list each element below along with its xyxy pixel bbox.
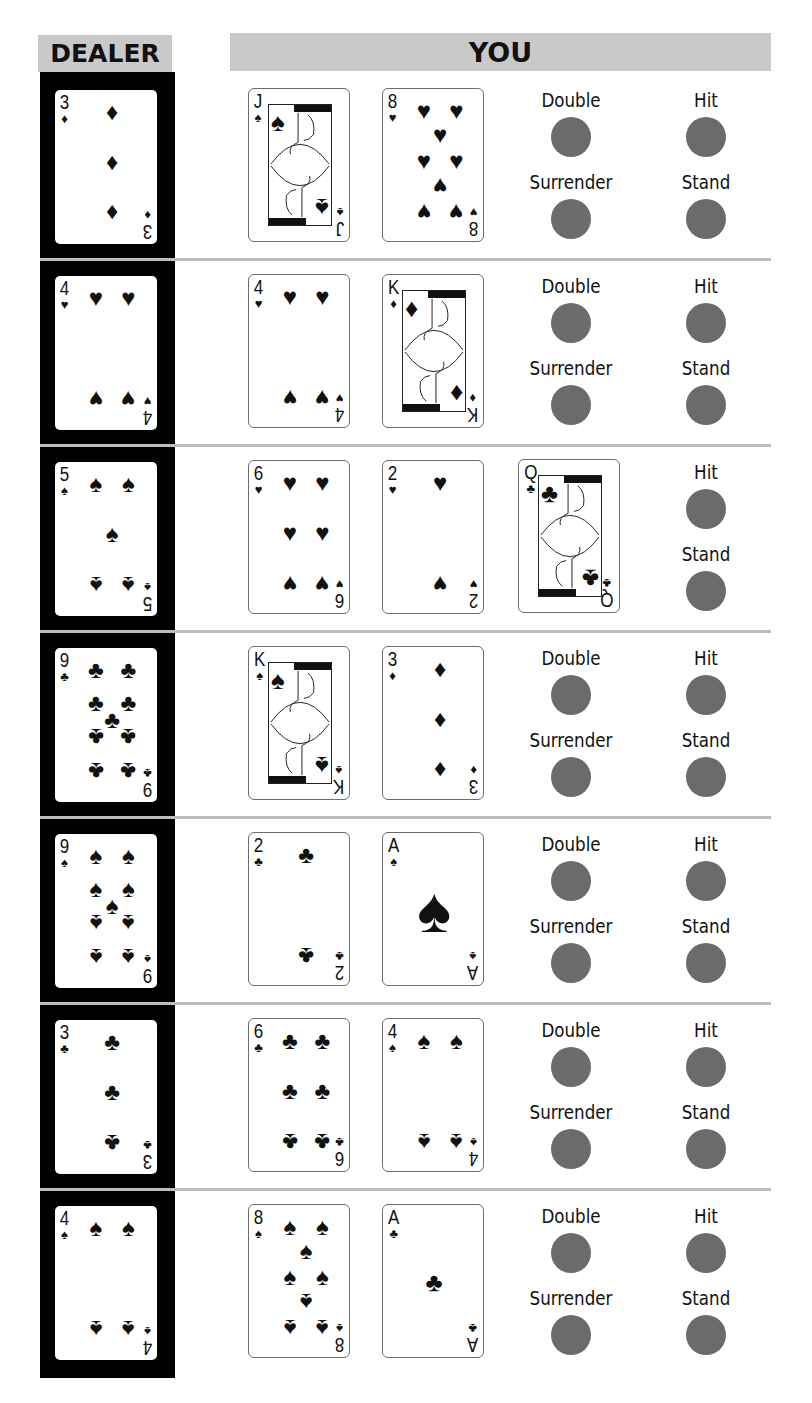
diamond-icon: ♦	[106, 201, 118, 225]
stand-label: Stand	[682, 915, 731, 937]
card-index-bottom: 3♦	[142, 209, 153, 242]
player-card: 4♥4♥♥♥♥♥	[248, 274, 350, 428]
double-button[interactable]	[551, 861, 591, 901]
double-button[interactable]	[551, 1047, 591, 1087]
stand-button[interactable]	[686, 1129, 726, 1169]
double-button[interactable]	[551, 117, 591, 157]
player-card: 6♣6♣♣♣♣♣♣♣	[248, 1018, 350, 1172]
player-card: 2♣2♣♣♣	[248, 832, 350, 986]
player-card: 3♦3♦♦♦♦	[382, 646, 484, 800]
heart-icon: ♥	[417, 200, 431, 224]
hit-button[interactable]	[686, 1047, 726, 1087]
card-index-bottom: 2♣	[334, 950, 345, 983]
player-card: 8♥8♥♥♥♥♥♥♥♥♥	[382, 88, 484, 242]
spade-icon: ♠	[315, 753, 329, 779]
card-index-bottom: 2♥	[468, 578, 479, 611]
surrender-button[interactable]	[551, 943, 591, 983]
stand-button[interactable]	[686, 571, 726, 611]
surrender-button[interactable]	[551, 757, 591, 797]
stand-button[interactable]	[686, 757, 726, 797]
card-rank: 8	[254, 1207, 263, 1227]
spade-icon: ♠	[89, 472, 102, 496]
heart-icon: ♥	[433, 123, 447, 147]
card-rank: Q	[601, 590, 614, 610]
surrender-label: Surrender	[530, 171, 613, 193]
club-icon: ♣	[527, 482, 536, 495]
card-index-top: 4♠	[387, 1021, 398, 1054]
card-rank: 3	[469, 777, 478, 797]
hand-row: 3♦3♦♦♦♦J♠J♠♠♠8♥8♥♥♥♥♥♥♥♥♥DoubleHitSurren…	[0, 73, 812, 259]
hit-label: Hit	[694, 647, 718, 669]
hit-label: Hit	[694, 89, 718, 111]
dealer-header: DEALER	[38, 35, 172, 72]
surrender-button[interactable]	[551, 199, 591, 239]
card-rank: 2	[254, 835, 263, 855]
double-button[interactable]	[551, 675, 591, 715]
stand-button[interactable]	[686, 199, 726, 239]
spade-icon: ♠	[300, 1290, 313, 1314]
face-band	[428, 291, 465, 298]
card-rank: 6	[254, 463, 263, 483]
surrender-label: Surrender	[530, 1287, 613, 1309]
card-rank: 4	[335, 405, 344, 425]
diamond-icon: ♦	[434, 657, 446, 681]
hand-row: 5♠5♠♠♠♠♠♠6♥6♥♥♥♥♥♥♥2♥2♥♥♥Q♣Q♣♣♣HitStand	[0, 445, 812, 631]
double-button[interactable]	[551, 303, 591, 343]
heart-icon: ♥	[449, 200, 463, 224]
club-icon: ♣	[315, 1029, 331, 1053]
hit-button[interactable]	[686, 861, 726, 901]
hit-button[interactable]	[686, 117, 726, 157]
club-icon: ♣	[88, 691, 104, 715]
surrender-label: Surrender	[530, 1101, 613, 1123]
dealer-card: 5♠5♠♠♠♠♠♠	[55, 462, 157, 616]
hit-button[interactable]	[686, 1233, 726, 1273]
card-index-top: 2♥	[387, 463, 398, 496]
player-card: A♣A♣♣	[382, 1204, 484, 1358]
card-index-bottom: J♠	[335, 206, 345, 239]
card-rank: 6	[335, 1149, 344, 1169]
surrender-button[interactable]	[551, 1129, 591, 1169]
card-index-bottom: K♦	[466, 392, 479, 425]
surrender-button[interactable]	[551, 1315, 591, 1355]
hit-button[interactable]	[686, 675, 726, 715]
heart-icon: ♥	[283, 572, 297, 596]
heart-icon: ♥	[89, 387, 103, 411]
card-rank: J	[336, 219, 345, 239]
hit-button[interactable]	[686, 489, 726, 529]
spade-icon: ♠	[89, 844, 102, 868]
spade-icon: ♠	[271, 109, 285, 135]
card-index-top: 3♦	[59, 92, 70, 125]
diamond-icon: ♦	[390, 297, 397, 310]
surrender-label: Surrender	[530, 729, 613, 751]
heart-icon: ♥	[315, 285, 329, 309]
heart-icon: ♥	[61, 298, 69, 311]
stand-label: Stand	[682, 171, 731, 193]
card-rank: 4	[254, 277, 263, 297]
hit-button[interactable]	[686, 303, 726, 343]
heart-icon: ♥	[315, 572, 329, 596]
card-rank: 4	[469, 1149, 478, 1169]
stand-button[interactable]	[686, 943, 726, 983]
spade-icon: ♠	[61, 484, 68, 497]
card-index-bottom: 4♥	[334, 392, 345, 425]
diamond-icon: ♦	[434, 707, 446, 731]
stand-button[interactable]	[686, 1315, 726, 1355]
you-header: YOU	[230, 33, 771, 71]
hit-label: Hit	[694, 1205, 718, 1227]
card-rank: 9	[60, 650, 69, 670]
spade-icon: ♠	[122, 844, 135, 868]
surrender-label: Surrender	[530, 357, 613, 379]
stand-button[interactable]	[686, 385, 726, 425]
surrender-button[interactable]	[551, 385, 591, 425]
card-index-bottom: 3♣	[142, 1139, 153, 1172]
club-icon: ♣	[104, 1080, 120, 1104]
card-index-top: 9♣	[59, 650, 70, 683]
hit-label: Hit	[694, 461, 718, 483]
double-button[interactable]	[551, 1233, 591, 1273]
heart-icon: ♥	[283, 521, 297, 545]
card-index-bottom: A♣	[466, 1322, 479, 1355]
hand-row: 9♣9♣♣♣♣♣♣♣♣♣♣K♠K♠♠♠3♦3♦♦♦♦DoubleHitSurre…	[0, 631, 812, 817]
club-icon: ♣	[88, 725, 104, 749]
card-index-top: Q♣	[523, 462, 539, 495]
stand-label: Stand	[682, 543, 731, 565]
